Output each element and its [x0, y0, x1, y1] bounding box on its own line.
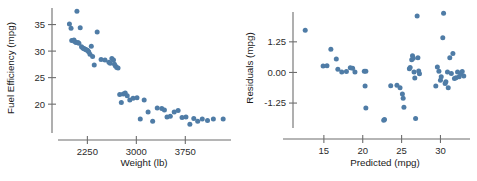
data-point: [155, 105, 160, 110]
scatterplot-panel-weight-vs-mpg: 20253035225030003750Weight (lb)Fuel Effi…: [0, 0, 237, 181]
data-point: [440, 35, 445, 40]
data-point: [168, 114, 173, 119]
data-point: [125, 93, 130, 98]
data-point: [363, 105, 368, 110]
data-point: [116, 66, 121, 71]
data-point: [408, 65, 413, 70]
data-point: [417, 71, 422, 76]
data-point: [92, 62, 97, 67]
right-plot-points: [303, 11, 467, 123]
data-point: [460, 69, 465, 74]
data-point: [388, 83, 393, 88]
data-point: [138, 117, 143, 122]
svg-text:25: 25: [396, 145, 407, 156]
data-point: [415, 14, 420, 19]
data-point: [441, 11, 446, 16]
left-plot-points: [67, 9, 226, 127]
data-point: [401, 105, 406, 110]
svg-text:3750: 3750: [175, 146, 196, 157]
figure-container: 20253035225030003750Weight (lb)Fuel Effi…: [0, 0, 477, 181]
svg-text:30: 30: [34, 46, 45, 57]
data-point: [400, 92, 405, 97]
svg-text:30: 30: [435, 145, 446, 156]
data-point: [412, 69, 417, 74]
data-point: [412, 76, 417, 81]
data-point: [433, 83, 438, 88]
svg-text:20: 20: [357, 145, 368, 156]
svg-text:0.00: 0.00: [268, 67, 287, 78]
svg-text:1.25: 1.25: [268, 36, 287, 47]
y-axis-title: Fuel Efficiency (mpg): [5, 22, 16, 114]
data-point: [119, 100, 124, 105]
left-plot-axes: [48, 8, 231, 144]
data-point: [74, 9, 79, 14]
data-point: [449, 71, 454, 76]
data-point: [187, 122, 192, 127]
data-point: [443, 79, 448, 84]
data-point: [90, 54, 95, 59]
data-point: [200, 117, 205, 122]
svg-text:35: 35: [34, 19, 45, 30]
y-axis-title: Residuals (mpg): [244, 32, 255, 103]
data-point: [67, 22, 72, 27]
svg-text:2250: 2250: [77, 146, 98, 157]
x-axis-title: Predicted (mpg): [350, 157, 420, 168]
data-point: [344, 69, 349, 74]
data-point: [221, 117, 226, 122]
data-point: [363, 69, 368, 74]
data-point: [334, 56, 339, 61]
data-point: [401, 96, 406, 101]
data-point: [382, 117, 387, 122]
data-point: [352, 69, 357, 74]
data-point: [446, 85, 451, 90]
svg-text:3000: 3000: [126, 146, 147, 157]
data-point: [363, 83, 368, 88]
x-axis-title: Weight (lb): [120, 157, 167, 168]
data-point: [95, 30, 100, 35]
data-point: [324, 63, 329, 68]
data-point: [142, 97, 147, 102]
data-point: [436, 69, 441, 74]
data-point: [111, 58, 116, 63]
left-plot-labels: 20253035225030003750Weight (lb)Fuel Effi…: [5, 19, 196, 168]
data-point: [413, 116, 418, 121]
data-point: [303, 28, 308, 33]
right-plot-labels: -1.250.001.2515202530Predicted (mpg)Resi…: [244, 32, 446, 168]
svg-text:-1.25: -1.25: [264, 97, 286, 108]
data-point: [211, 117, 216, 122]
data-point: [450, 51, 455, 56]
data-point: [339, 69, 344, 74]
data-point: [439, 74, 444, 79]
data-point: [195, 119, 200, 124]
data-point: [78, 25, 83, 30]
scatterplot-weight-vs-efficiency: 20253035225030003750Weight (lb)Fuel Effi…: [0, 0, 237, 181]
data-point: [183, 114, 188, 119]
data-point: [205, 118, 210, 123]
data-point: [146, 110, 151, 115]
residual-plot-panel: -1.250.001.2515202530Predicted (mpg)Resi…: [237, 0, 477, 181]
data-point: [150, 119, 155, 124]
residual-plot-predicted-vs-residuals: -1.250.001.2515202530Predicted (mpg)Resi…: [237, 0, 477, 181]
svg-text:25: 25: [34, 72, 45, 83]
svg-text:20: 20: [34, 99, 45, 110]
svg-text:15: 15: [319, 145, 330, 156]
data-point: [415, 55, 420, 60]
data-point: [69, 26, 74, 31]
data-point: [89, 44, 94, 49]
data-point: [328, 47, 333, 52]
data-point: [411, 56, 416, 61]
data-point: [162, 108, 167, 113]
data-point: [176, 108, 181, 113]
data-point: [447, 55, 452, 60]
data-point: [461, 73, 466, 78]
data-point: [398, 85, 403, 90]
data-point: [134, 95, 139, 100]
